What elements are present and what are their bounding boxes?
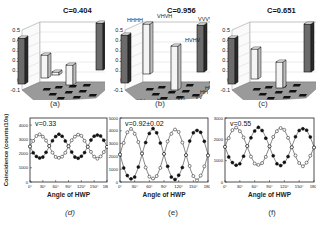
x-tick-label: 120°	[280, 184, 289, 189]
y-tick-label: 3000	[19, 137, 29, 142]
bar	[197, 25, 204, 72]
data-point	[64, 151, 67, 154]
data-point	[257, 163, 260, 166]
data-point	[174, 128, 177, 131]
data-point	[99, 134, 102, 137]
data-point	[264, 155, 267, 158]
y-tick-label: 5000	[109, 116, 119, 121]
data-point	[181, 166, 184, 169]
data-point	[242, 155, 245, 158]
bar-label: VHVH	[157, 13, 172, 19]
data-point	[290, 146, 293, 149]
data-point	[122, 141, 125, 144]
data-point	[170, 132, 173, 135]
x-axis-label: Angle of HWP	[47, 191, 91, 199]
data-point	[38, 156, 41, 159]
data-point	[231, 129, 234, 132]
data-point	[35, 155, 38, 158]
data-point	[246, 145, 249, 148]
plot-frame	[30, 118, 107, 182]
caption-e: (e)	[158, 208, 188, 217]
z-tick-label: 0.5	[115, 27, 123, 33]
data-point	[192, 131, 195, 134]
data-point	[152, 127, 155, 130]
data-point	[163, 152, 166, 155]
data-point	[279, 164, 282, 167]
data-point	[253, 129, 256, 132]
data-point	[159, 141, 162, 144]
panel-e: 0100020003000400050000°30°60°90°120°150°…	[108, 110, 210, 225]
data-point	[152, 177, 155, 180]
data-point	[54, 155, 57, 158]
data-point	[203, 165, 206, 168]
y-tick-label: 4000	[19, 123, 29, 128]
y-tick-label: 1000	[19, 165, 29, 170]
data-point	[45, 139, 48, 142]
data-point	[203, 140, 206, 143]
data-point	[298, 129, 301, 132]
data-point	[126, 174, 129, 177]
data-point	[309, 135, 312, 138]
line-chart-d: 010002000300040000°30°60°90°120°150°180°…	[0, 110, 108, 208]
data-point	[122, 166, 125, 169]
data-point	[144, 166, 147, 169]
x-tick-label: 60°	[146, 184, 153, 189]
data-point	[166, 165, 169, 168]
data-point	[32, 139, 35, 142]
data-point	[196, 129, 199, 132]
data-point	[41, 156, 44, 159]
data-point	[93, 135, 96, 138]
data-point	[188, 140, 191, 143]
data-point	[67, 145, 70, 148]
data-point	[96, 134, 99, 137]
bar	[96, 23, 103, 70]
data-point	[287, 155, 290, 158]
x-tick-label: 60°	[52, 184, 59, 189]
axis-label-front: VH	[177, 95, 185, 100]
data-point	[141, 152, 144, 155]
data-point	[54, 135, 57, 138]
line-plot: 010002000300040000°30°60°90°120°150°180°…	[3, 114, 108, 199]
bar	[171, 46, 178, 90]
line-plot: 01000200030000°30°60°90°120°150°180°Angl…	[214, 116, 316, 200]
data-point	[227, 155, 230, 158]
data-point	[279, 127, 282, 130]
axis-label-side: HH	[200, 89, 208, 95]
data-point	[174, 178, 177, 181]
data-point	[64, 139, 67, 142]
data-point	[283, 128, 286, 131]
y-axis-label: Coincidence (counts/10s)	[3, 114, 9, 187]
bar	[228, 38, 235, 84]
data-point	[45, 151, 48, 154]
bar	[143, 24, 150, 74]
data-point	[309, 154, 312, 157]
visibility-annotation: v=0.33	[35, 120, 56, 127]
data-point	[272, 135, 275, 138]
data-point	[275, 130, 278, 133]
x-axis-label: Angle of HWP	[248, 191, 292, 199]
data-point	[80, 155, 83, 158]
data-point	[93, 155, 96, 158]
plot-frame	[225, 118, 314, 182]
bar-label: HVHV	[185, 37, 201, 43]
data-point	[57, 133, 60, 136]
caption-d: (d)	[55, 208, 85, 217]
data-point	[301, 165, 304, 168]
y-tick-label: 1000	[109, 167, 119, 172]
y-tick-label: 3000	[214, 116, 224, 121]
panel-a: C=0.4040.50.40.30.20.10-0.1 (a)	[0, 0, 105, 110]
plot-frame	[120, 118, 208, 182]
x-tick-label: 0°	[118, 184, 122, 189]
data-point	[77, 157, 80, 160]
data-point	[99, 155, 102, 158]
data-point	[77, 133, 80, 136]
data-point	[313, 146, 316, 149]
data-point	[80, 134, 83, 137]
panel-d: 010002000300040000°30°60°90°120°150°180°…	[0, 110, 108, 225]
data-point	[133, 132, 136, 135]
z-tick-label: -0.1	[11, 87, 20, 93]
chart-title: C=0.651	[267, 6, 296, 15]
data-point	[298, 162, 301, 165]
y-tick-label: 2000	[19, 151, 29, 156]
x-tick-label: 30°	[40, 184, 47, 189]
